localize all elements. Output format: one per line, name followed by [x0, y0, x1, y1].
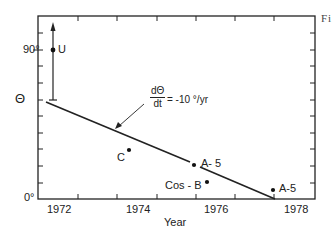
- annotation-numerator: dΘ: [150, 86, 165, 98]
- y-tick-0: 0°: [24, 192, 35, 203]
- u-lower-limit-arrow: [49, 22, 57, 100]
- y-ticks-right: [310, 33, 315, 183]
- annotation-fraction: dΘ dt: [150, 86, 165, 109]
- figure-corner-text: Fi: [321, 12, 332, 24]
- data-point-c: [127, 148, 131, 152]
- x-axis-label: Year: [164, 217, 186, 228]
- x-ticks-bottom: [78, 194, 274, 199]
- point-label-a5-1975: A- 5: [201, 158, 221, 169]
- annotation-denominator: dt: [150, 98, 165, 109]
- data-point-a5-1977: [271, 188, 275, 192]
- annotation-rate: = -10 °/yr: [167, 95, 208, 105]
- x-tick-1978: 1978: [284, 204, 308, 215]
- point-label-c: C: [117, 152, 125, 163]
- x-tick-1974: 1974: [126, 204, 150, 215]
- data-point-u: [51, 48, 56, 53]
- x-ticks-top: [78, 16, 274, 21]
- data-point-a5-1975: [192, 163, 196, 167]
- point-label-u: U: [58, 44, 66, 55]
- x-tick-1972: 1972: [47, 204, 71, 215]
- y-tick-90: 90°: [23, 44, 40, 55]
- plot-frame: [38, 16, 315, 199]
- y-axis-label: Θ: [15, 92, 25, 105]
- x-tick-1976: 1976: [204, 204, 228, 215]
- annotation-leader-arrow: [115, 104, 144, 129]
- trend-line: [46, 102, 275, 199]
- data-point-cos-b: [205, 180, 209, 184]
- point-label-a5-1977: A-5: [279, 183, 296, 194]
- point-label-cos-b: Cos - B: [165, 180, 202, 191]
